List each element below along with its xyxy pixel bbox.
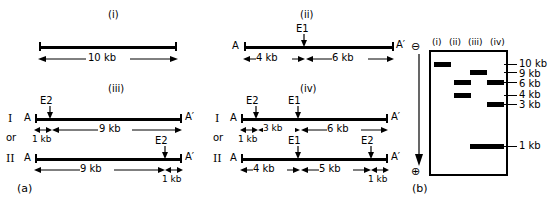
site-arrow-iv-II-E2 [367, 146, 376, 159]
gel-band-lane-iv-3kb [487, 102, 504, 107]
site-label-iv-II-E1: E1 [288, 136, 301, 146]
bar-end-cap-right-iv-II [386, 154, 388, 163]
bar-end-cap-right-iv-I [386, 114, 388, 123]
end-label-left-iii-II: A [24, 153, 31, 163]
gel-band-lane-iii-1kb [470, 144, 487, 149]
marker-tick-3 [504, 95, 517, 96]
alt-label-iii-II: II [6, 153, 15, 164]
gel-plate [429, 50, 508, 176]
gel-band-lane-i-10kb [434, 62, 451, 67]
marker-tick-0 [504, 64, 517, 65]
panel-title-iv: (iv) [300, 84, 317, 94]
bar-end-cap-left-iv-I [241, 114, 243, 123]
bar-end-cap-right-iii-I [180, 114, 182, 123]
marker-tick-4 [504, 104, 517, 105]
gel-lane-header-1: (ii) [449, 38, 461, 47]
segment-label-iii-II-0: 9 kb [80, 164, 102, 174]
marker-label-3kb: 3 kb [519, 100, 541, 110]
gel-band-lane-ii-6kb [454, 80, 471, 85]
panel-title-ii: (ii) [300, 10, 313, 20]
segment-label-iii-II-1: 1 kb [162, 175, 182, 184]
site-arrow-iii-I-E2 [46, 106, 55, 119]
site-label-iii-I-E2: E2 [40, 96, 53, 106]
dna-bar-iii-row-I [36, 118, 181, 121]
site-arrow-iv-I-E1 [294, 106, 303, 119]
site-arrow-iv-I-E2 [252, 106, 261, 119]
alt-or-iv: or [213, 133, 223, 143]
gel-lane-header-3: (iv) [490, 38, 505, 47]
site-arrow-iii-II-E2 [161, 146, 170, 159]
restriction-map-figure: (i) 10 kb (ii) A A′ E1 4 kb 6 kb (iii) I… [0, 0, 555, 203]
bar-end-cap-left-ii [244, 42, 246, 51]
gel-band-lane-iii-9kb [470, 70, 487, 75]
segment-label-ii-0: 4 kb [256, 53, 278, 63]
site-label-iv-II-E2: E2 [361, 136, 374, 146]
end-label-left-iii-I: A [24, 113, 31, 123]
alt-or-iii: or [6, 133, 16, 143]
segment-label-ii-1: 6 kb [332, 53, 354, 63]
marker-tick-5 [504, 146, 517, 147]
segment-label-iv-II-2: 1 kb [368, 175, 388, 184]
site-label-iv-I-E1: E1 [288, 96, 301, 106]
marker-label-1kb: 1 kb [519, 141, 541, 151]
segment-label-iv-I-1: 3 kb [263, 124, 283, 133]
negative-electrode-symbol: ⊖ [411, 41, 420, 52]
dna-bar-iii-row-II [36, 158, 181, 161]
dna-bar-iv-row-I [242, 118, 387, 121]
segment-label-iv-II-0: 4 kb [253, 164, 275, 174]
gel-band-lane-iv-1kb [487, 144, 504, 149]
part-a-label: (a) [17, 183, 32, 194]
marker-tick-2 [504, 82, 517, 83]
bar-end-cap-left-iv-II [241, 154, 243, 163]
marker-tick-1 [504, 72, 517, 73]
site-label-ii-E1: E1 [296, 24, 309, 34]
segment-label-iv-I-2: 6 kb [327, 124, 349, 134]
panel-title-i: (i) [108, 10, 119, 20]
site-label-iv-I-E2: E2 [246, 96, 259, 106]
end-label-right-iii-I: A′ [185, 112, 194, 122]
dna-bar-panel-ii [245, 46, 393, 49]
panel-title-iii: (iii) [108, 84, 124, 94]
bar-end-cap-right-iii-II [180, 154, 182, 163]
bar-end-cap-right-ii [392, 42, 394, 51]
site-arrow-ii-E1 [300, 34, 309, 47]
gel-lane-header-0: (i) [432, 38, 442, 47]
alt-label-iv-II: II [213, 153, 222, 164]
end-label-right-ii: A′ [396, 40, 405, 50]
bar-end-cap-left-iii-I [35, 114, 37, 123]
bar-end-cap-left-iii-II [35, 154, 37, 163]
site-label-iii-II-E2: E2 [155, 136, 168, 146]
positive-electrode-symbol: ⊕ [411, 166, 420, 177]
end-label-right-iii-II: A′ [185, 152, 194, 162]
gel-band-lane-ii-4kb [454, 93, 471, 98]
migration-direction-arrow [414, 54, 425, 166]
end-label-right-iv-II: A′ [391, 152, 400, 162]
end-label-left-iv-I: A [230, 113, 237, 123]
segment-label-iv-II-1: 5 kb [319, 164, 341, 174]
alt-label-iv-I: I [215, 113, 219, 124]
dna-bar-panel-i [40, 46, 176, 49]
alt-label-iii-I: I [8, 113, 12, 124]
segment-label-i-0: 10 kb [88, 53, 116, 63]
bar-end-cap-right-i [175, 42, 177, 51]
part-b-label: (b) [412, 183, 428, 194]
gel-band-lane-iv-6kb [487, 80, 504, 85]
end-label-right-iv-I: A′ [391, 112, 400, 122]
bar-end-cap-left-i [39, 42, 41, 51]
gel-lane-header-2: (iii) [468, 38, 483, 47]
segment-label-iv-I-0: 1 kb [238, 135, 258, 144]
marker-label-6kb: 6 kb [519, 79, 541, 89]
end-label-left-ii: A [232, 41, 239, 51]
end-label-left-iv-II: A [230, 153, 237, 163]
site-arrow-iv-II-E1 [294, 146, 303, 159]
dna-bar-iv-row-II [242, 158, 387, 161]
segment-label-iii-I-0: 1 kb [32, 135, 52, 144]
segment-label-iii-I-1: 9 kb [99, 124, 121, 134]
